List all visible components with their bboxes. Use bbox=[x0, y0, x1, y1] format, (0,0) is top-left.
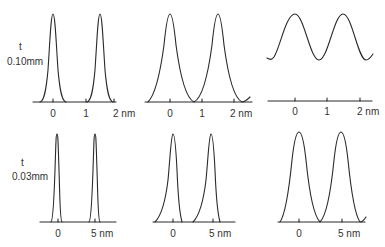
curve bbox=[51, 134, 100, 222]
panel-r1c2 bbox=[145, 14, 252, 102]
x-tick-label: 0 bbox=[50, 109, 56, 119]
x-tick-label: 2 nm bbox=[357, 107, 379, 117]
x-tick-label: 1 bbox=[324, 107, 330, 117]
row2-thickness-symbol: t bbox=[21, 158, 24, 168]
x-tick-label: 2 nm bbox=[230, 109, 252, 119]
x-tick-label: 2 nm bbox=[113, 109, 135, 119]
panel-r2c2 bbox=[153, 134, 235, 222]
x-tick-label: 0 bbox=[55, 229, 61, 239]
panel-r2c1 bbox=[40, 134, 116, 222]
row2-thickness-value: 0.03mm bbox=[12, 172, 48, 182]
row1-thickness-symbol: t bbox=[19, 42, 22, 52]
curve bbox=[280, 132, 366, 222]
row1-thickness-value: 0.10mm bbox=[7, 57, 43, 67]
x-tick-label: 0 bbox=[167, 109, 173, 119]
x-tick-label: 0 bbox=[296, 229, 302, 239]
panel-r1c3 bbox=[267, 14, 373, 101]
panel-r1c1 bbox=[33, 14, 116, 102]
x-tick-label: 0 bbox=[292, 107, 298, 117]
curve bbox=[40, 14, 113, 102]
curve bbox=[155, 134, 220, 222]
x-tick-label: 5 nm bbox=[209, 229, 231, 239]
curve bbox=[267, 14, 373, 60]
x-tick-label: 5 nm bbox=[338, 229, 360, 239]
x-tick-label: 0 bbox=[170, 229, 176, 239]
x-tick-label: 5 nm bbox=[91, 229, 113, 239]
panel-r2c3 bbox=[278, 132, 366, 222]
curve bbox=[148, 14, 250, 102]
figure-canvas bbox=[0, 0, 385, 247]
x-tick-label: 1 bbox=[83, 109, 89, 119]
x-tick-label: 1 bbox=[199, 109, 205, 119]
